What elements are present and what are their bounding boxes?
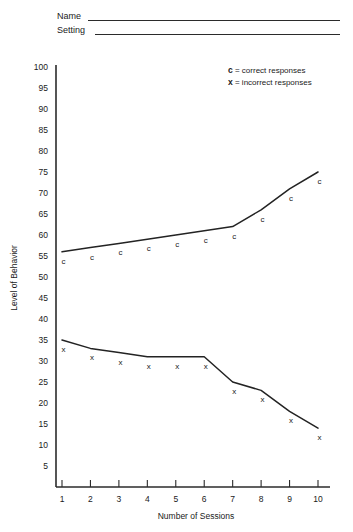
svg-text:60: 60: [39, 230, 49, 240]
svg-text:100: 100: [34, 62, 48, 72]
data-point-marker: x: [175, 362, 179, 371]
svg-text:70: 70: [39, 188, 49, 198]
data-point-marker: x: [318, 433, 322, 442]
data-point-marker: x: [147, 362, 151, 371]
data-point-marker: x: [204, 362, 208, 371]
data-point-marker: x: [118, 358, 122, 367]
svg-text:5: 5: [173, 494, 178, 504]
y-axis-tick-labels: 5101520253035404550556065707580859095100: [34, 62, 48, 471]
series-line-incorrect: [62, 340, 318, 428]
svg-text:50: 50: [39, 272, 49, 282]
data-point-marker: c: [175, 240, 179, 249]
svg-text:65: 65: [39, 209, 49, 219]
data-point-marker: c: [232, 232, 236, 241]
data-point-marker: c: [118, 248, 122, 257]
data-point-marker: c: [147, 244, 151, 253]
svg-text:20: 20: [39, 398, 49, 408]
svg-text:4: 4: [145, 494, 150, 504]
svg-text:55: 55: [39, 251, 49, 261]
x-axis-title: Number of Sessions: [158, 511, 235, 521]
svg-text:1: 1: [60, 494, 65, 504]
series-markers-incorrect: xxxxxxxxxx: [62, 345, 322, 442]
svg-text:10: 10: [313, 494, 323, 504]
data-point-marker: c: [318, 177, 322, 186]
svg-text:2: 2: [88, 494, 93, 504]
series-line-correct: [62, 172, 318, 252]
series-markers-correct: cccccccccc: [62, 177, 322, 266]
svg-text:35: 35: [39, 335, 49, 345]
data-point-marker: x: [232, 387, 236, 396]
svg-text:8: 8: [259, 494, 264, 504]
svg-text:40: 40: [39, 314, 49, 324]
data-point-marker: x: [90, 353, 94, 362]
x-axis-tick-labels: 12345678910: [60, 494, 323, 504]
data-point-marker: c: [204, 236, 208, 245]
svg-text:45: 45: [39, 293, 49, 303]
svg-text:25: 25: [39, 377, 49, 387]
svg-text:10: 10: [39, 440, 49, 450]
data-point-marker: c: [289, 194, 293, 203]
svg-text:15: 15: [39, 419, 49, 429]
svg-text:80: 80: [39, 146, 49, 156]
svg-text:3: 3: [117, 494, 122, 504]
data-point-marker: x: [261, 395, 265, 404]
svg-text:85: 85: [39, 125, 49, 135]
data-point-marker: c: [90, 253, 94, 262]
worksheet-page: Name Setting c = correct responses x = i…: [0, 0, 353, 532]
x-axis-tick-marks: [62, 480, 318, 487]
svg-text:95: 95: [39, 83, 49, 93]
line-chart: 5101520253035404550556065707580859095100…: [0, 0, 353, 532]
svg-text:30: 30: [39, 356, 49, 366]
svg-text:75: 75: [39, 167, 49, 177]
data-point-marker: x: [62, 345, 66, 354]
data-point-marker: c: [261, 215, 265, 224]
svg-text:5: 5: [43, 461, 48, 471]
y-axis-title: Level of Behavior: [9, 245, 19, 311]
svg-text:90: 90: [39, 104, 49, 114]
svg-text:6: 6: [202, 494, 207, 504]
svg-text:7: 7: [230, 494, 235, 504]
svg-text:9: 9: [287, 494, 292, 504]
data-point-marker: c: [62, 257, 66, 266]
data-point-marker: x: [289, 416, 293, 425]
